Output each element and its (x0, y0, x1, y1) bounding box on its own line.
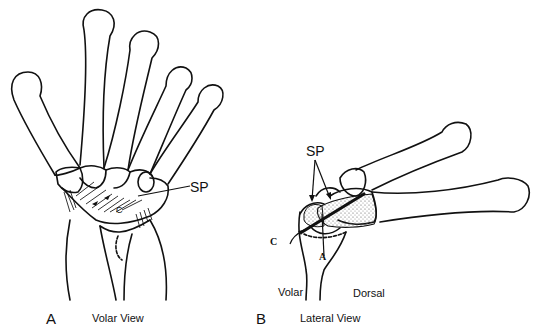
lateral-view-drawing (0, 0, 535, 330)
volar-sp-label: SP (190, 180, 209, 194)
panel-b-letter: B (256, 311, 266, 326)
lateral-sp-label: SP (306, 144, 325, 158)
dorsal-side-label: Dorsal (353, 288, 385, 299)
lateral-a-label: A (319, 252, 326, 262)
panel-a-letter: A (46, 311, 56, 326)
volar-c-label: C (116, 206, 123, 215)
panel-b-caption: Lateral View (300, 313, 360, 324)
volar-side-label: Volar (278, 287, 303, 298)
anatomy-figure: SP C A Volar View SP C A Volar Dorsal B … (0, 0, 535, 330)
panel-a-caption: Volar View (92, 313, 144, 324)
lateral-c-label: C (270, 237, 277, 247)
